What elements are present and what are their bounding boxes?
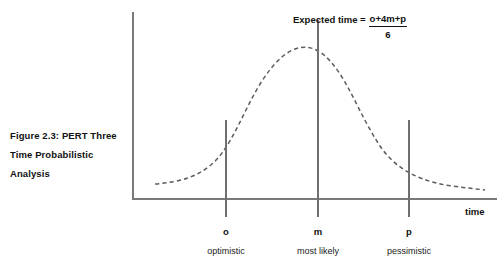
tick-label-optimistic: optimistic bbox=[181, 245, 271, 258]
figure-caption-line-2: Time Probabilistic bbox=[10, 145, 128, 164]
tick-group-optimistic: o optimistic bbox=[181, 225, 271, 258]
tick-group-most-likely: m most likely bbox=[273, 225, 363, 258]
marker-line-pessimistic bbox=[408, 120, 410, 217]
figure-caption-line-1: Figure 2.3: PERT Three bbox=[10, 126, 128, 145]
tick-symbol-optimistic: o bbox=[181, 225, 271, 238]
marker-line-most-likely bbox=[317, 20, 319, 217]
figure-canvas: Figure 2.3: PERT Three Time Probabilisti… bbox=[0, 0, 501, 269]
expected-time-formula: Expected time = o+4m+p 6 bbox=[293, 13, 407, 41]
tick-group-pessimistic: p pessimistic bbox=[364, 225, 454, 258]
tick-symbol-pessimistic: p bbox=[364, 225, 454, 238]
x-axis-title: time bbox=[465, 206, 485, 217]
figure-caption: Figure 2.3: PERT Three Time Probabilisti… bbox=[10, 126, 128, 183]
tick-label-pessimistic: pessimistic bbox=[364, 245, 454, 258]
tick-symbol-most-likely: m bbox=[273, 225, 363, 238]
marker-line-optimistic bbox=[225, 120, 227, 217]
figure-caption-line-3: Analysis bbox=[10, 164, 128, 183]
tick-label-most-likely: most likely bbox=[273, 245, 363, 258]
fraction-denominator: 6 bbox=[385, 27, 390, 41]
expected-time-fraction: o+4m+p 6 bbox=[369, 13, 407, 41]
expected-time-formula-label: Expected time = bbox=[293, 13, 366, 26]
fraction-numerator: o+4m+p bbox=[369, 13, 407, 27]
